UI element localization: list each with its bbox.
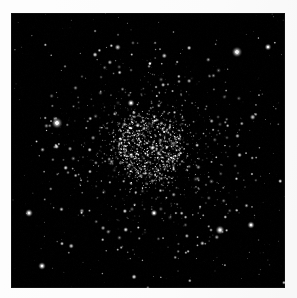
astronomy-photo-plate (11, 13, 285, 288)
image-page (0, 0, 297, 298)
star-field-canvas (11, 13, 285, 288)
